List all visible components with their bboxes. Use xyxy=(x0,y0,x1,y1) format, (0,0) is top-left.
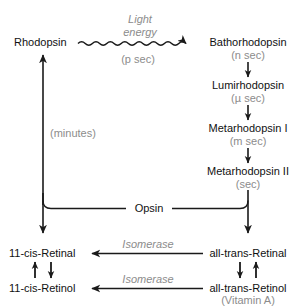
node-all-trans-retinal: all-trans-Retinal xyxy=(209,247,286,259)
node-rhodopsin: Rhodopsin xyxy=(14,36,67,48)
annotation-sec: (sec) xyxy=(236,178,260,190)
annotation-isomerase-top: Isomerase xyxy=(122,238,173,250)
node-metarhodopsin-ii: Metarhodopsin II xyxy=(207,165,289,177)
opsin-bracket-right xyxy=(172,201,248,209)
node-opsin: Opsin xyxy=(135,202,164,214)
node-11-cis-retinal: 11-cis-Retinal xyxy=(9,247,75,259)
annotation-m-sec: (m sec) xyxy=(230,135,267,147)
annotation-vitamin-a: (Vitamin A) xyxy=(221,294,275,306)
node-metarhodopsin-i: Metarhodopsin I xyxy=(209,122,288,134)
node-lumirhodopsin: Lumirhodopsin xyxy=(212,79,284,91)
node-all-trans-retinol: all-trans-Retinol xyxy=(209,282,286,294)
annotation-n-sec: (n sec) xyxy=(231,49,265,61)
annotation-p-sec: (p sec) xyxy=(121,53,155,65)
annotation-light-energy-line2: energy xyxy=(123,26,157,38)
annotation-minutes: (minutes) xyxy=(50,127,96,139)
wavy-light-arrow xyxy=(78,42,186,45)
node-bathorhodopsin: Bathorhodopsin xyxy=(209,36,286,48)
node-11-cis-retinol: 11-cis-Retinol xyxy=(9,282,75,294)
rhodopsin-cycle-diagram: Rhodopsin Bathorhodopsin Lumirhodopsin M… xyxy=(0,0,302,307)
annotation-mu-sec: (µ sec) xyxy=(231,92,265,104)
annotation-light-energy-line1: Light xyxy=(128,13,152,25)
opsin-bracket-left xyxy=(43,201,126,209)
annotation-isomerase-bottom: Isomerase xyxy=(122,273,173,285)
